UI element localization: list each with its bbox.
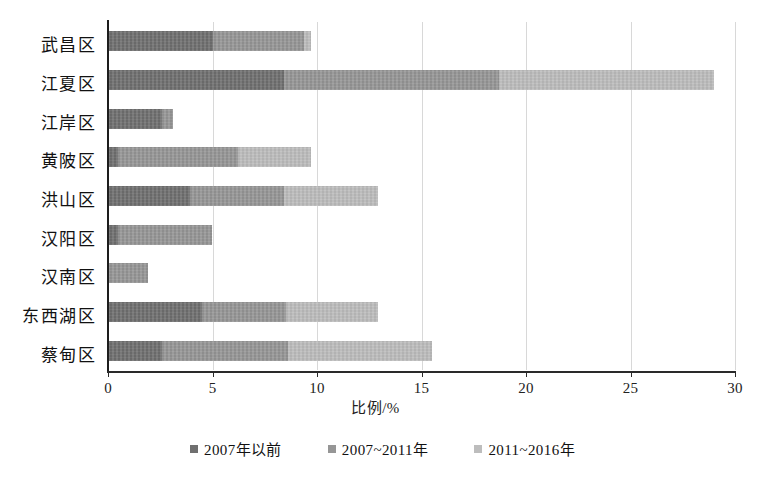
legend-label: 2011~2016年 <box>488 438 575 459</box>
bar-chart: 051015202530 武昌区江夏区江岸区黄陂区洪山区汉阳区汉南区东西湖区蔡甸… <box>0 0 765 487</box>
bar-segment <box>108 186 190 206</box>
y-axis-label: 蔡甸区 <box>41 341 97 366</box>
bar-segment <box>162 341 287 361</box>
y-axis-label: 黄陂区 <box>41 147 97 172</box>
bar-stack <box>108 31 311 51</box>
gridline <box>735 22 736 370</box>
bar-stack <box>108 225 213 245</box>
bar-segment <box>108 147 118 167</box>
bar-segment <box>499 70 714 90</box>
y-axis-label: 汉阳区 <box>41 225 97 250</box>
x-axis-title: 比例/% <box>0 396 765 417</box>
x-axis-tick <box>631 371 632 377</box>
legend-item[interactable]: 2007~2011年 <box>328 438 429 459</box>
bar-stack <box>108 341 432 361</box>
x-axis-tick-label: 25 <box>623 380 638 397</box>
bar-segment <box>118 147 237 167</box>
plot-area <box>108 22 735 370</box>
y-axis-label: 洪山区 <box>41 186 97 211</box>
x-axis-title-text: 比例/% <box>351 400 400 416</box>
y-axis-label: 江夏区 <box>41 70 97 95</box>
bar-segment <box>108 31 213 51</box>
x-axis-tick <box>735 371 736 377</box>
bar-segment <box>238 147 311 167</box>
bar-segment <box>284 186 378 206</box>
bar-stack <box>108 302 378 322</box>
bar-segment <box>284 70 499 90</box>
x-axis-tick <box>422 371 423 377</box>
x-axis-tick-label: 0 <box>104 380 112 397</box>
legend-swatch-icon <box>328 445 336 453</box>
bar-segment <box>108 263 148 283</box>
y-axis-category-labels: 武昌区江夏区江岸区黄陂区洪山区汉阳区汉南区东西湖区蔡甸区 <box>0 22 100 370</box>
bar-segment <box>118 225 212 245</box>
y-axis-label: 汉南区 <box>41 263 97 288</box>
x-axis-tick <box>317 371 318 377</box>
bar-stack <box>108 70 714 90</box>
y-axis-label: 东西湖区 <box>22 302 96 327</box>
x-axis-tick-label: 10 <box>309 380 324 397</box>
x-axis-tick <box>526 371 527 377</box>
chart-legend: 2007年以前2007~2011年2011~2016年 <box>0 438 765 459</box>
x-axis-tick-label: 15 <box>414 380 429 397</box>
x-axis-tick-label: 20 <box>518 380 533 397</box>
legend-label: 2007年以前 <box>204 438 282 459</box>
x-axis-tick-label: 5 <box>209 380 217 397</box>
bar-segment <box>108 225 118 245</box>
y-axis-line <box>107 20 109 372</box>
bar-segment <box>288 341 432 361</box>
bar-stack <box>108 109 173 129</box>
bar-stack <box>108 186 378 206</box>
y-axis-label: 武昌区 <box>41 31 97 56</box>
x-axis-tick-label: 30 <box>727 380 742 397</box>
legend-swatch-icon <box>190 445 198 453</box>
x-axis-tick <box>108 371 109 377</box>
bar-segment <box>304 31 310 51</box>
bar-stack <box>108 263 148 283</box>
bar-segment <box>286 302 378 322</box>
bar-segment <box>108 70 284 90</box>
legend-swatch-icon <box>474 445 482 453</box>
x-axis-tick <box>213 371 214 377</box>
bar-segment <box>190 186 284 206</box>
bar-segment <box>213 31 305 51</box>
legend-item[interactable]: 2007年以前 <box>190 438 282 459</box>
y-axis-label: 江岸区 <box>41 109 97 134</box>
bar-segment <box>202 302 286 322</box>
legend-item[interactable]: 2011~2016年 <box>474 438 575 459</box>
bar-segment <box>108 109 162 129</box>
bar-segment <box>108 341 162 361</box>
bar-segment <box>108 302 202 322</box>
bar-stack <box>108 147 311 167</box>
bar-segment <box>162 109 172 129</box>
legend-label: 2007~2011年 <box>342 438 429 459</box>
